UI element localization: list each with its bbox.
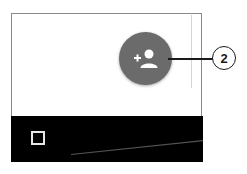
add-contact-fab[interactable] <box>119 32 172 85</box>
callout-badge: 2 <box>212 46 236 70</box>
scrollbar <box>191 15 192 88</box>
navigation-bar <box>11 116 203 162</box>
add-person-icon <box>133 49 159 69</box>
callout-leader-line <box>168 58 213 60</box>
square-icon[interactable] <box>31 131 45 145</box>
divider-line <box>71 138 203 155</box>
